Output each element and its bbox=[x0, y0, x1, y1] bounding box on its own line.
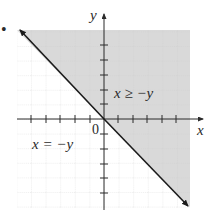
origin-label: 0 bbox=[92, 122, 99, 137]
bullet-marker: • bbox=[1, 21, 7, 38]
y-axis-label: y bbox=[88, 7, 97, 23]
boundary-equation-label: x = −y bbox=[31, 136, 73, 152]
x-axis-label: x bbox=[196, 122, 204, 138]
inequality-label: x ≥ −y bbox=[113, 85, 154, 101]
inequality-graph: • y x 0 x ≥ −y x = −y bbox=[0, 0, 210, 215]
